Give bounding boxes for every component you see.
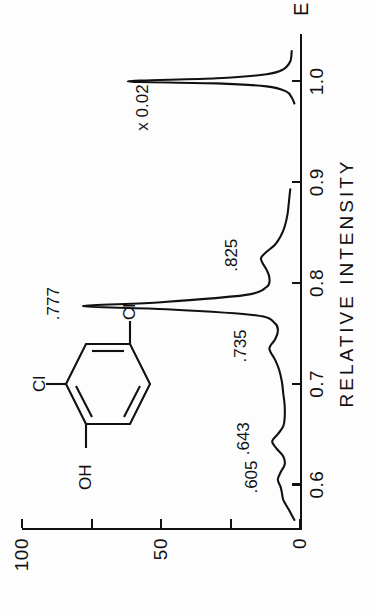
peak-label: .643 <box>234 422 254 455</box>
cl-ortho-label: Cl <box>30 376 50 392</box>
peak-label: .825 <box>222 239 242 272</box>
double-bond-3 <box>124 386 140 417</box>
peak-label: x 0.02 <box>133 84 153 130</box>
molecule-structure-2-4-dichlorophenol: OH Cl Cl <box>56 316 166 466</box>
benzene-ring-drawing <box>56 316 166 466</box>
ring-outline <box>66 344 150 424</box>
rotated-figure-canvas: 0.60.70.80.91.0 050100 E RELATIVE INTENS… <box>0 0 376 616</box>
figure-page: 0.60.70.80.91.0 050100 E RELATIVE INTENS… <box>0 0 376 616</box>
oh-group-label: OH <box>76 465 96 491</box>
peak-label: .735 <box>231 329 251 362</box>
peak-label: .605 <box>242 461 262 494</box>
double-bond-1 <box>76 386 92 417</box>
cl-para-label: Cl <box>120 304 140 320</box>
